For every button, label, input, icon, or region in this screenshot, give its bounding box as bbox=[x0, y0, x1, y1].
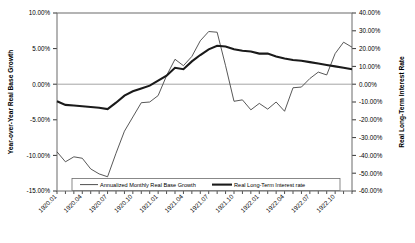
chart-svg: 10.00%5.00%0.00%-5.00%-10.00%-15.00% 40.… bbox=[0, 0, 415, 243]
x-axis-tick-label: 1922.04 bbox=[264, 192, 285, 213]
x-axis-tick-label: 1922.07 bbox=[290, 192, 311, 213]
y-axis-left-title: Year-over-Year Real Base Growth bbox=[7, 50, 14, 154]
series-line-real-long-term-interest-rate bbox=[57, 46, 352, 109]
x-axis-tick-label: 1920.10 bbox=[113, 192, 134, 213]
x-axis-tick-label: 1921.04 bbox=[163, 192, 184, 213]
x-axis-tick-label: 1920.01 bbox=[37, 192, 58, 213]
plot-area-border bbox=[57, 13, 352, 191]
x-axis-tick-label: 1920.07 bbox=[87, 192, 108, 213]
y-axis-right-tick-label: 10.00% bbox=[359, 63, 381, 70]
x-axis-tick-label: 1921.01 bbox=[138, 192, 159, 213]
y-axis-right-tick-label: 40.00% bbox=[359, 9, 381, 16]
y-axis-right-tick-label: -30.00% bbox=[359, 134, 383, 141]
x-axis-tick-label: 1922.10 bbox=[315, 192, 336, 213]
x-axis-tick-label: 1921.07 bbox=[188, 192, 209, 213]
y-axis-left-tick-label: 5.00% bbox=[32, 45, 50, 52]
y-axis-right-tick-label: -20.00% bbox=[359, 116, 383, 123]
legend: Annualized Monthly Real Base Growth Real… bbox=[72, 179, 340, 191]
y-axis-right-tick-label: -60.00% bbox=[359, 187, 383, 194]
chart-container: 10.00%5.00%0.00%-5.00%-10.00%-15.00% 40.… bbox=[0, 0, 415, 243]
y-axis-right-tick-label: -40.00% bbox=[359, 152, 383, 159]
y-axis-right-tick-label: 30.00% bbox=[359, 27, 381, 34]
y-axis-left-tick-label: -15.00% bbox=[27, 187, 51, 194]
legend-label-annualized-monthly-real-base-growth: Annualized Monthly Real Base Growth bbox=[100, 182, 196, 188]
x-axis-tick-label: 1922.01 bbox=[239, 192, 260, 213]
x-axis-tick-label: 1920.04 bbox=[62, 192, 83, 213]
x-axis-tick-label: 1921.10 bbox=[214, 192, 235, 213]
y-axis-left-tick-label: 0.00% bbox=[32, 81, 50, 88]
y-axis-right-tick-label: -10.00% bbox=[359, 98, 383, 105]
y-axis-left-tick-label: -5.00% bbox=[30, 116, 50, 123]
legend-label-real-long-term-interest-rate: Real Long-Term Interest rate bbox=[234, 182, 305, 188]
y-axis-left-tick-label: -10.00% bbox=[27, 152, 51, 159]
x-axis-tick-group: 1920.011920.041920.071920.101921.011921.… bbox=[37, 191, 352, 214]
y-axis-right-tick-label: -50.00% bbox=[359, 170, 383, 177]
y-axis-left-tick-label: 10.00% bbox=[29, 9, 51, 16]
y-axis-left-tick-group: 10.00%5.00%0.00%-5.00%-10.00%-15.00% bbox=[27, 9, 57, 194]
y-axis-right-tick-label: 20.00% bbox=[359, 45, 381, 52]
y-axis-right-title: Real Long-Term Interest Rate bbox=[398, 56, 406, 148]
y-axis-right-tick-label: 0.00% bbox=[359, 81, 377, 88]
y-axis-right-tick-group: 40.00%30.00%20.00%10.00%0.00%-10.00%-20.… bbox=[352, 9, 383, 194]
